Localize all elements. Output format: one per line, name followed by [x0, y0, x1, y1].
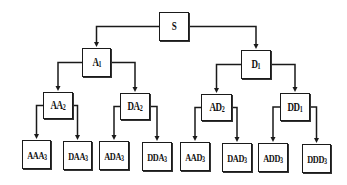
node-label: DAA3: [68, 150, 87, 162]
arrowhead-icon: [112, 135, 117, 140]
tree-node-aad3: AAD3: [180, 142, 210, 171]
arrowhead-icon: [133, 87, 138, 92]
tree-node-daa3: DAA3: [63, 141, 92, 170]
connector-line: [310, 107, 317, 139]
arrowhead-icon: [214, 88, 219, 93]
node-label: AA2: [51, 98, 66, 113]
node-label: S: [172, 19, 177, 34]
tree-node-add3: ADD3: [258, 143, 288, 172]
arrowhead-icon: [56, 86, 61, 91]
connector-line: [189, 27, 256, 46]
connector-line: [217, 65, 242, 90]
node-label: DA2: [128, 99, 143, 114]
node-label: DAD3: [227, 152, 246, 164]
connector-line: [232, 108, 237, 139]
arrowhead-icon: [235, 137, 240, 142]
connector-line: [273, 107, 280, 138]
arrowhead-icon: [293, 87, 298, 92]
tree-node-dad3: DAD3: [222, 143, 252, 172]
connector-line: [111, 63, 135, 89]
node-label: AAD3: [185, 151, 204, 163]
node-label: DD1: [288, 100, 303, 115]
connector-line: [150, 107, 157, 138]
tree-node-s: S: [159, 12, 189, 41]
connector-line: [97, 27, 160, 44]
node-label: AAA3: [27, 149, 46, 161]
node-label: ADD3: [263, 152, 282, 164]
node-label: DDD3: [307, 153, 326, 165]
tree-node-dda3: DDA3: [142, 142, 172, 171]
tree-node-da2: DA2: [120, 93, 150, 120]
arrowhead-icon: [155, 136, 160, 141]
tree-node-dd1: DD1: [280, 93, 310, 121]
node-label: DDA3: [147, 151, 166, 163]
connector-line: [271, 65, 295, 89]
arrowhead-icon: [94, 42, 99, 47]
node-label: D1: [252, 57, 261, 72]
arrowhead-icon: [254, 44, 259, 49]
node-label: ADA3: [104, 150, 123, 162]
connector-line: [58, 63, 82, 88]
arrowhead-icon: [193, 136, 198, 141]
arrowhead-icon: [34, 134, 39, 139]
arrowhead-icon: [314, 138, 319, 143]
node-label: AD2: [209, 100, 224, 115]
tree-node-ddd3: DDD3: [302, 144, 331, 173]
tree-node-ada3: ADA3: [99, 141, 129, 170]
tree-node-aa2: AA2: [43, 92, 73, 119]
arrowhead-icon: [271, 137, 276, 142]
tree-node-aaa3: AAA3: [22, 140, 51, 169]
node-label: A1: [92, 55, 101, 70]
connector-line: [73, 106, 78, 137]
tree-node-ad2: AD2: [201, 94, 232, 121]
tree-node-a1: A1: [82, 48, 111, 77]
tree-diagram: SA1D1AA2DA2AD2DD1AAA3DAA3ADA3DDA3AAD3DAD…: [0, 0, 347, 185]
arrowhead-icon: [75, 135, 80, 140]
tree-node-d1: D1: [241, 50, 271, 79]
